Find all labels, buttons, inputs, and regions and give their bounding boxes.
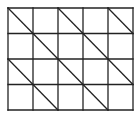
grid-diagram	[0, 0, 140, 117]
diagonal-line	[108, 8, 133, 34]
grid-lines	[8, 8, 133, 110]
diagonal-line	[58, 8, 133, 85]
